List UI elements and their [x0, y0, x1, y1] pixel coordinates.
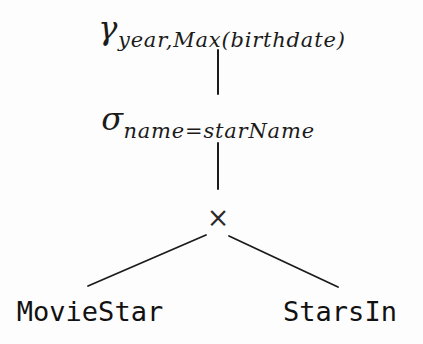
leaf-moviestar-label: MovieStar — [17, 296, 163, 327]
cross-product-node: × — [207, 204, 230, 231]
leaf-starsin-label: StarsIn — [283, 296, 397, 327]
query-tree-diagram: γyear,Max(birthdate) σname=starName × Mo… — [0, 0, 423, 344]
aggregation-node: γyear,Max(birthdate) — [98, 12, 345, 51]
leaf-starsin: StarsIn — [283, 298, 397, 325]
edge-product-left-leaf — [88, 235, 206, 286]
leaf-moviestar: MovieStar — [17, 298, 163, 325]
selection-node: σname=starName — [101, 103, 315, 142]
edge-product-right-leaf — [229, 236, 338, 287]
sigma-operator-symbol: σ — [101, 100, 123, 138]
gamma-operator-symbol: γ — [98, 9, 118, 47]
aggregation-subscript: year,Max(birthdate) — [118, 28, 346, 52]
selection-subscript: name=starName — [123, 119, 314, 143]
times-operator-symbol: × — [207, 202, 230, 233]
